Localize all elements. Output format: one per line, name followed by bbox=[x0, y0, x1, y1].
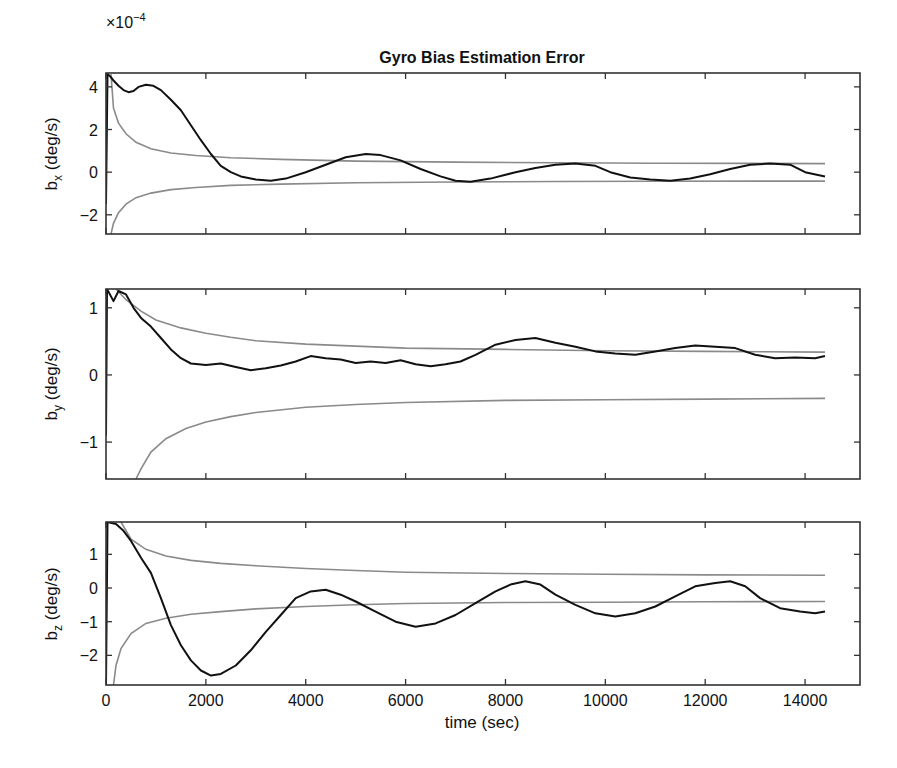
x-tick-label: 0 bbox=[102, 692, 111, 709]
y-exponent-label: ×10−4 bbox=[106, 11, 146, 31]
x-tick-label: 10000 bbox=[583, 692, 628, 709]
y-tick-label: 0 bbox=[89, 164, 98, 181]
series-layer bbox=[106, 522, 825, 685]
estimation-error-line bbox=[106, 289, 825, 435]
y-tick-label: −2 bbox=[80, 647, 98, 664]
x-axis-label: time (sec) bbox=[445, 713, 520, 732]
y-axis-label-bx: bx (deg/s) bbox=[42, 117, 65, 190]
y-tick-label: 4 bbox=[89, 79, 98, 96]
series-layer bbox=[106, 289, 825, 479]
ticks-layer: −2024 bbox=[80, 73, 860, 234]
y-tick-label: 1 bbox=[89, 546, 98, 563]
y-tick-label: 2 bbox=[89, 122, 98, 139]
axes-frame bbox=[106, 73, 860, 234]
sigma-bound-line bbox=[116, 289, 825, 352]
sigma-bound-line bbox=[136, 398, 825, 479]
subplot-bx: −2024 ×10−4 bx (deg/s) bbox=[42, 11, 860, 234]
y-axis-label-by: by (deg/s) bbox=[42, 347, 65, 420]
estimation-error-line bbox=[106, 74, 825, 204]
x-tick-label: 2000 bbox=[188, 692, 224, 709]
sigma-bound-line bbox=[114, 602, 826, 686]
y-tick-label: −1 bbox=[80, 614, 98, 631]
series-layer bbox=[106, 74, 825, 234]
axes-frame bbox=[106, 289, 860, 479]
subplot-by: −101 by (deg/s) bbox=[42, 289, 860, 479]
y-tick-label: −1 bbox=[80, 434, 98, 451]
y-axis-label-bz: bz (deg/s) bbox=[42, 567, 65, 640]
x-tick-label: 4000 bbox=[288, 692, 324, 709]
sigma-bound-line bbox=[111, 74, 825, 164]
y-tick-label: 1 bbox=[89, 300, 98, 317]
sigma-bound-line bbox=[111, 181, 825, 234]
x-tick-label: 14000 bbox=[783, 692, 828, 709]
y-tick-label: −2 bbox=[80, 207, 98, 224]
x-tick-label: 8000 bbox=[488, 692, 524, 709]
x-tick-labels: 02000400060008000100001200014000 bbox=[102, 692, 828, 709]
x-tick-label: 12000 bbox=[683, 692, 728, 709]
subplot-bz: −2−101 02000400060008000100001200014000 … bbox=[42, 522, 860, 709]
ticks-layer: −101 bbox=[80, 289, 860, 479]
sigma-bound-line bbox=[121, 522, 825, 575]
x-tick-label: 6000 bbox=[388, 692, 424, 709]
y-tick-label: 0 bbox=[89, 367, 98, 384]
y-tick-label: 0 bbox=[89, 580, 98, 597]
chart-title: Gyro Bias Estimation Error bbox=[379, 49, 584, 66]
gyro-bias-figure: Gyro Bias Estimation Error −2024 ×10−4 b… bbox=[0, 0, 897, 768]
